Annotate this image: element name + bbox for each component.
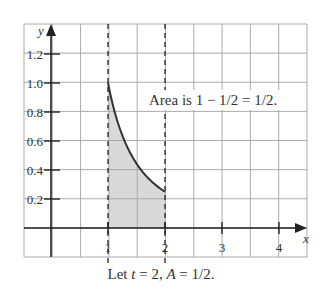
y-tick-label: 0.6 [27, 134, 44, 149]
y-axis-arrow-icon [46, 24, 56, 36]
y-tick-label: 1.0 [27, 76, 43, 91]
figure-caption: Let t = 2, A = 1/2. [0, 266, 322, 283]
y-tick-label: 0.2 [27, 192, 43, 207]
y-axis-label: y [36, 23, 44, 38]
x-axis-label: x [302, 231, 309, 246]
chart: 12340.20.40.60.81.01.2xyArea is 1 − 1/2 … [0, 0, 322, 294]
y-tick-label: 0.8 [27, 105, 43, 120]
x-tick-label: 1 [105, 240, 112, 255]
y-tick-label: 1.2 [27, 47, 43, 62]
y-tick-label: 0.4 [27, 163, 44, 178]
area-annotation: Area is 1 − 1/2 = 1/2. [149, 92, 277, 108]
x-tick-label: 4 [276, 240, 283, 255]
x-tick-label: 3 [219, 240, 226, 255]
x-tick-label: 2 [162, 240, 169, 255]
